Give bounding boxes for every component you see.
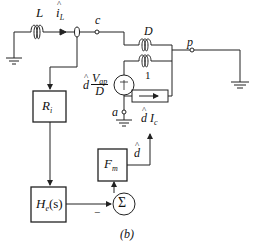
left-ground-icon xyxy=(6,32,31,64)
figure-caption: (b) xyxy=(120,228,134,240)
node-c-label: c xyxy=(95,14,100,26)
current-arrow xyxy=(60,29,66,35)
voltage-source-label: d Vap D xyxy=(83,72,108,97)
sum-minus-sign: − xyxy=(94,207,100,218)
transformer-top-winding xyxy=(139,39,151,51)
middle-ground-icon xyxy=(116,120,132,126)
inductor-coil xyxy=(31,25,43,39)
transformer-bottom-winding xyxy=(139,55,151,67)
transformer-ratio-top: D xyxy=(144,25,153,37)
inductor-current-label: iL xyxy=(56,6,64,19)
transformer-ratio-bottom: 1 xyxy=(145,70,151,81)
current-source-label: d Ic xyxy=(141,112,158,124)
fm-block-label: Fm xyxy=(104,157,118,170)
he-block-label: He(s) xyxy=(36,197,63,210)
node-c xyxy=(95,30,99,34)
inductor-label: L xyxy=(36,6,43,19)
feedback-d-label: d xyxy=(134,147,140,159)
node-a xyxy=(122,110,126,114)
ri-block-label: Ri xyxy=(42,99,52,112)
right-ground-icon xyxy=(231,82,249,88)
current-sensor xyxy=(75,27,80,37)
node-a-label: a xyxy=(112,106,118,118)
sum-symbol: Σ xyxy=(118,196,126,210)
node-p-label: p xyxy=(187,36,193,48)
